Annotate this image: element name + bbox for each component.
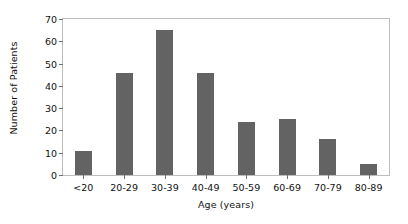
x-tick-mark bbox=[246, 175, 247, 179]
y-tick-label: 30 bbox=[45, 103, 57, 114]
x-tick-mark bbox=[124, 175, 125, 179]
x-tick-label: 70-79 bbox=[314, 182, 342, 193]
x-tick-mark bbox=[165, 175, 166, 179]
x-tick-label: 40-49 bbox=[192, 182, 220, 193]
y-tick-mark bbox=[59, 153, 63, 154]
bar-chart-figure: Number of Patients 010203040506070<2020-… bbox=[0, 0, 408, 224]
y-tick-label: 40 bbox=[45, 80, 57, 91]
y-axis-title: Number of Patients bbox=[8, 0, 22, 176]
bar bbox=[156, 30, 173, 175]
y-tick-mark bbox=[59, 108, 63, 109]
x-tick-mark bbox=[206, 175, 207, 179]
y-tick-label: 20 bbox=[45, 125, 57, 136]
bar bbox=[75, 151, 92, 176]
bar bbox=[116, 73, 133, 176]
x-tick-mark bbox=[328, 175, 329, 179]
y-tick-mark bbox=[59, 86, 63, 87]
y-tick-label: 60 bbox=[45, 36, 57, 47]
x-tick-label: 50-59 bbox=[233, 182, 261, 193]
bar bbox=[197, 73, 214, 176]
x-tick-label: <20 bbox=[73, 182, 93, 193]
x-tick-label: 30-39 bbox=[151, 182, 179, 193]
bar bbox=[319, 139, 336, 175]
x-tick-mark bbox=[287, 175, 288, 179]
bar bbox=[360, 164, 377, 175]
bar bbox=[279, 119, 296, 175]
y-tick-label: 0 bbox=[51, 170, 57, 181]
x-tick-label: 20-29 bbox=[110, 182, 138, 193]
x-tick-label: 60-69 bbox=[273, 182, 301, 193]
x-tick-label: 80-89 bbox=[355, 182, 383, 193]
y-tick-mark bbox=[59, 41, 63, 42]
y-tick-mark bbox=[59, 130, 63, 131]
x-tick-mark bbox=[83, 175, 84, 179]
y-tick-mark bbox=[59, 64, 63, 65]
bar bbox=[238, 122, 255, 175]
x-axis-title: Age (years) bbox=[62, 199, 390, 210]
y-tick-label: 50 bbox=[45, 58, 57, 69]
y-tick-mark bbox=[59, 175, 63, 176]
y-tick-label: 70 bbox=[45, 14, 57, 25]
y-tick-label: 10 bbox=[45, 147, 57, 158]
y-tick-mark bbox=[59, 19, 63, 20]
x-tick-mark bbox=[369, 175, 370, 179]
plot-area: 010203040506070<2020-2930-3940-4950-5960… bbox=[62, 18, 390, 176]
